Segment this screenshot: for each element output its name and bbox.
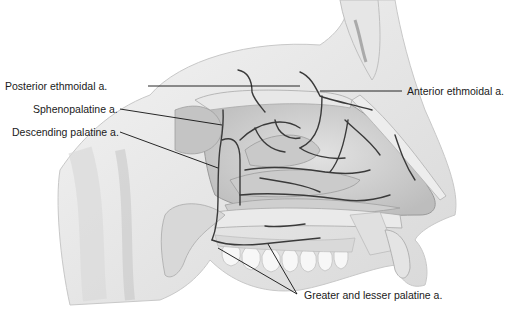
label-greater-lesser-palatine: Greater and lesser palatine a. xyxy=(304,289,442,301)
label-sphenopalatine: Sphenopalatine a. xyxy=(33,103,118,115)
label-descending-palatine: Descending palatine a. xyxy=(12,126,119,138)
nasal-cavity-illustration xyxy=(0,0,510,333)
anatomy-diagram: Posterior ethmoidal a. Sphenopalatine a.… xyxy=(0,0,510,333)
label-anterior-ethmoidal: Anterior ethmoidal a. xyxy=(407,85,504,97)
label-posterior-ethmoidal: Posterior ethmoidal a. xyxy=(5,80,107,92)
